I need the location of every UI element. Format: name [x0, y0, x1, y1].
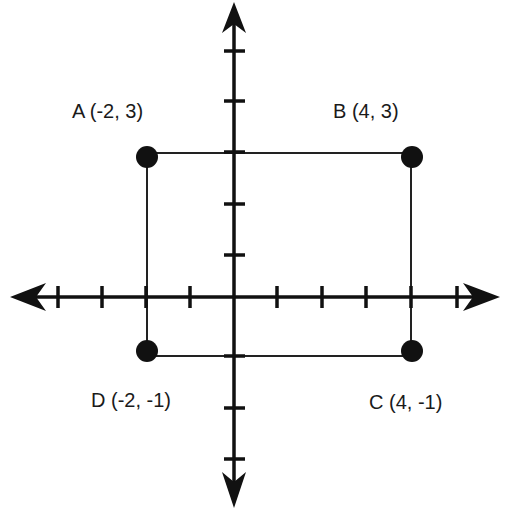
point-d-label: D (-2, -1)	[91, 390, 171, 410]
coordinate-plane	[0, 0, 523, 516]
point-b	[401, 146, 423, 168]
point-c-label: C (4, -1)	[369, 392, 442, 412]
point-a	[136, 146, 158, 168]
point-c	[401, 340, 423, 362]
point-b-label: B (4, 3)	[333, 101, 399, 121]
point-d	[136, 340, 158, 362]
rectangle-abcd	[147, 153, 411, 356]
point-a-label: A (-2, 3)	[72, 101, 143, 121]
